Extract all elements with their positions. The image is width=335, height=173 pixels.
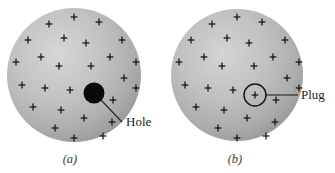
sphere-a	[7, 8, 141, 142]
panel-b-caption: (b)	[228, 152, 243, 166]
panel-b: Plug (b)	[171, 9, 325, 166]
figure-canvas: Hole (a)	[0, 0, 335, 173]
hole-label: Hole	[126, 114, 152, 129]
panel-a-caption: (a)	[63, 152, 78, 166]
sphere-b	[171, 9, 303, 141]
panel-a: Hole (a)	[7, 8, 152, 166]
electrostatics-shell-figure: Hole (a)	[0, 0, 335, 173]
plug-label: Plug	[301, 87, 325, 102]
